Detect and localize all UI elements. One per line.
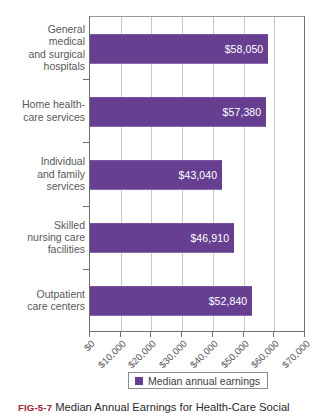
figure-caption-text: Median Annual Earnings for Health-Care S… — [55, 401, 289, 413]
bar: $43,040 — [90, 160, 222, 190]
y-axis-tick — [83, 206, 89, 207]
legend-swatch-icon — [135, 377, 143, 385]
x-axis-tick — [150, 332, 151, 337]
x-axis-tick — [181, 332, 182, 337]
x-axis-tick — [120, 332, 121, 337]
figure-bar-chart: $58,050$57,380$43,040$46,910$52,840 Gene… — [0, 0, 326, 420]
category-label: Skilled nursing care facilities — [9, 219, 85, 256]
category-label: Home health- care services — [9, 98, 85, 123]
bar: $58,050 — [90, 34, 268, 64]
plot-area: $58,050$57,380$43,040$46,910$52,840 — [89, 16, 305, 332]
x-axis-tick — [212, 332, 213, 337]
x-axis-tick — [304, 332, 305, 337]
bar-value-label: $52,840 — [209, 295, 253, 307]
x-axis-tick — [273, 332, 274, 337]
bar-value-label: $46,910 — [190, 232, 234, 244]
category-label: Individual and family services — [9, 155, 85, 192]
bar-value-label: $43,040 — [179, 169, 223, 181]
x-axis-tick — [89, 332, 90, 337]
chart-legend: Median annual earnings — [128, 372, 268, 389]
bar: $52,840 — [90, 286, 252, 316]
legend-label: Median annual earnings — [148, 375, 260, 387]
gridline — [274, 17, 275, 331]
gridline — [244, 17, 245, 331]
figure-caption: FIG-5-7Median Annual Earnings for Health… — [18, 401, 318, 414]
y-axis-tick — [83, 269, 89, 270]
bar: $57,380 — [90, 97, 266, 127]
category-label: Outpatient care centers — [9, 288, 85, 313]
x-axis-tick — [243, 332, 244, 337]
bar-value-label: $57,380 — [223, 106, 267, 118]
y-axis-tick — [83, 142, 89, 143]
figure-number: FIG-5-7 — [18, 402, 52, 413]
bar-value-label: $58,050 — [225, 43, 269, 55]
category-label: General medical and surgical hospitals — [9, 23, 85, 73]
y-axis-tick — [83, 79, 89, 80]
bar: $46,910 — [90, 223, 234, 253]
